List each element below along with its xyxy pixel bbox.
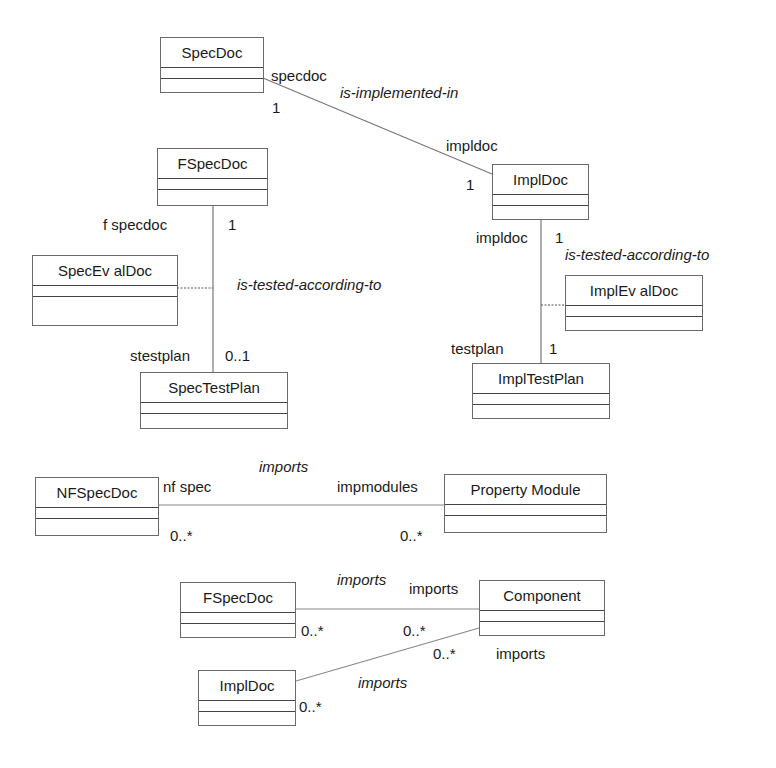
multiplicity-label: 1 <box>549 340 557 358</box>
class-attributes <box>445 505 606 516</box>
class-name: FSpecDoc <box>181 583 295 613</box>
class-name: SpecTestPlan <box>141 373 287 403</box>
multiplicity-label: 0..* <box>400 527 423 545</box>
class-attributes <box>161 68 263 79</box>
association-name: imports <box>337 571 386 589</box>
multiplicity-label: 1 <box>466 176 474 194</box>
class-attributes <box>36 508 158 519</box>
role-label: testplan <box>451 340 504 358</box>
class-attributes <box>33 286 177 297</box>
multiplicity-label: 1 <box>228 216 236 234</box>
multiplicity-label: 0..* <box>301 622 324 640</box>
class-impltestplan: ImplTestPlan <box>472 363 610 419</box>
multiplicity-label: 0..* <box>433 645 456 663</box>
class-name: FSpecDoc <box>158 149 267 179</box>
class-name: ImplTestPlan <box>473 364 609 394</box>
class-attributes <box>158 179 267 190</box>
class-name: ImplDoc <box>199 671 295 701</box>
multiplicity-label: 0..1 <box>225 347 250 365</box>
class-fspecdoc-bottom: FSpecDoc <box>180 582 296 638</box>
class-attributes <box>493 195 588 206</box>
association-name: is-tested-according-to <box>565 246 709 264</box>
role-label: imports <box>409 580 458 598</box>
role-label: imports <box>496 645 545 663</box>
class-name: ImplEv alDoc <box>566 276 702 306</box>
class-attributes <box>480 611 604 622</box>
class-specdoc: SpecDoc <box>160 37 264 93</box>
class-impldoc-bottom: ImplDoc <box>198 670 296 726</box>
class-name: ImplDoc <box>493 165 588 195</box>
multiplicity-label: 0..* <box>299 698 322 716</box>
class-name: Property Module <box>445 475 606 505</box>
association-lines <box>0 0 776 768</box>
multiplicity-label: 0..* <box>403 622 426 640</box>
association-name: imports <box>259 458 308 476</box>
class-spectestplan: SpecTestPlan <box>140 372 288 429</box>
role-label: specdoc <box>271 67 327 85</box>
class-nfspecdoc: NFSpecDoc <box>35 477 159 536</box>
class-implevaldoc: ImplEv alDoc <box>565 275 703 331</box>
multiplicity-label: 1 <box>555 229 563 247</box>
class-impldoc-top: ImplDoc <box>492 164 589 220</box>
role-label: f specdoc <box>103 216 167 234</box>
class-name: SpecDoc <box>161 38 263 68</box>
class-name: NFSpecDoc <box>36 478 158 508</box>
class-attributes <box>566 306 702 317</box>
class-attributes <box>473 394 609 405</box>
class-propertymodule: Property Module <box>444 474 607 533</box>
association-name: is-tested-according-to <box>237 276 381 294</box>
multiplicity-label: 1 <box>272 99 280 117</box>
class-name: Component <box>480 581 604 611</box>
role-label: impmodules <box>337 478 418 496</box>
class-name: SpecEv alDoc <box>33 256 177 286</box>
role-label: impldoc <box>446 137 498 155</box>
class-attributes <box>141 403 287 414</box>
class-specevaldoc: SpecEv alDoc <box>32 255 178 326</box>
role-label: stestplan <box>130 347 190 365</box>
class-fspecdoc-top: FSpecDoc <box>157 148 268 206</box>
class-attributes <box>181 613 295 624</box>
association-name: imports <box>358 674 407 692</box>
class-attributes <box>199 701 295 712</box>
class-component: Component <box>479 580 605 636</box>
association-name: is-implemented-in <box>340 84 458 102</box>
multiplicity-label: 0..* <box>170 527 193 545</box>
role-label: nf spec <box>163 478 211 496</box>
role-label: impldoc <box>476 229 528 247</box>
